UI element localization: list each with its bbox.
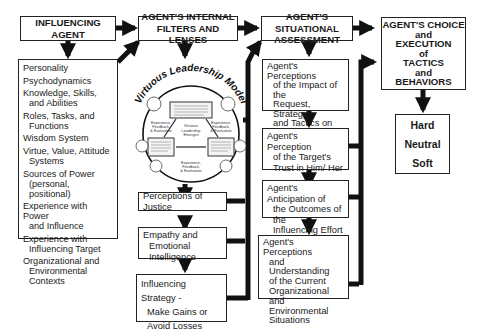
svg-text:Emerges: Emerges — [183, 133, 198, 137]
list-item-power-experience: Experience with Powerand Influence — [23, 201, 113, 231]
box-text: Situations — [263, 316, 344, 326]
influencing-strategy-box: Influencing Strategy - Make Gains or Avo… — [136, 274, 227, 322]
svg-text:Virtuous: Virtuous — [184, 124, 198, 128]
box-text: Agent's Perceptions — [263, 238, 344, 258]
list-item-psychodynamics: Psychodynamics — [23, 76, 113, 86]
box-text: Influencing Effort — [267, 225, 344, 236]
agent-attributes-list: Personality Psychodynamics Knowledge, Sk… — [18, 59, 118, 239]
box-text: of the Target's — [267, 152, 344, 163]
box-text: Agent's Perceptions — [267, 62, 344, 81]
list-item-virtue: Virtue, Value, AttitudeSystems — [23, 146, 113, 166]
header-line: AGENT'S INTERNAL — [141, 11, 234, 23]
box-text: Agent's Anticipation of — [267, 183, 344, 204]
tactic-outcomes-box: Hard Neutral Soft — [395, 114, 450, 174]
list-item-knowledge: Knowledge, Skills,and Abilities — [23, 88, 113, 108]
box-text: Make Gains or — [141, 305, 222, 319]
influencing-agent-header: INFLUENCING AGENT — [20, 16, 116, 41]
header-line: ASSESSMENT — [274, 34, 340, 46]
box-text: Trust in Him/ Her — [267, 163, 344, 174]
impact-perception-box: Agent's Perceptions of the Impact of the… — [262, 59, 349, 111]
header-line: BEHAVIORS — [395, 77, 451, 87]
target-trust-box: Agent's Perception of the Target's Trust… — [262, 128, 349, 170]
svg-text:& Evaluation: & Evaluation — [210, 129, 231, 133]
box-text: Agent's Perception — [267, 131, 344, 152]
header-line: AGENT — [51, 29, 85, 41]
list-item-wisdom: Wisdom System — [23, 133, 113, 143]
header-line: FILTERS AND LENSES — [139, 23, 237, 46]
box-text: Influencing Strategy - — [141, 277, 222, 305]
box-text: Request, Strategy, — [267, 100, 344, 119]
box-text: Perceptions of Justice — [143, 191, 222, 213]
box-text: the Outcomes of the — [267, 204, 344, 225]
list-item-power-sources: Sources of Power(personal, positional) — [23, 169, 113, 199]
environment-understanding-box: Agent's Perceptions and Understanding of… — [258, 235, 349, 299]
svg-text:& Evaluation: & Evaluation — [180, 169, 201, 173]
list-item-roles: Roles, Tasks, andFunctions — [23, 111, 113, 131]
box-text: Empathy and — [143, 230, 222, 241]
box-text: Organizational and — [263, 287, 344, 307]
header-line: INFLUENCING — [35, 17, 101, 29]
internal-filters-header: AGENT'S INTERNAL FILTERS AND LENSES — [138, 16, 238, 41]
outcome-anticipation-box: Agent's Anticipation of the Outcomes of … — [262, 180, 349, 218]
perceptions-of-justice-box: Perceptions of Justice — [138, 192, 227, 211]
outcome-soft: Soft — [396, 154, 449, 173]
list-item-personality: Personality — [23, 63, 113, 73]
svg-text:& Evaluation: & Evaluation — [150, 129, 171, 133]
box-text: Emotional Intelligence — [143, 241, 222, 263]
box-text: and Understanding — [263, 258, 344, 278]
box-text: Avoid Losses — [141, 319, 222, 332]
outcome-neutral: Neutral — [396, 135, 449, 154]
header-line: AGENT'S SITUATIONAL — [262, 11, 352, 34]
outcome-hard: Hard — [396, 116, 449, 135]
box-text: of the Impact of the — [267, 81, 344, 100]
agent-choice-header: AGENT'S CHOICE and EXECUTION of TACTICS … — [381, 17, 466, 90]
situational-assessment-header: AGENT'S SITUATIONAL ASSESSMENT — [261, 16, 353, 41]
list-item-contexts: Organizational andEnvironmental Contexts — [23, 256, 113, 286]
list-item-target-experience: Experience withInfluencing Target — [23, 234, 113, 254]
virtuous-leadership-model: Virtuous Leadership Model Virtuous Leade… — [128, 58, 254, 184]
empathy-box: Empathy and Emotional Intelligence — [138, 227, 227, 259]
svg-text:Leadership: Leadership — [182, 129, 201, 133]
virtuous-leadership-model-graphic: Virtuous Leadership Model Virtuous Leade… — [128, 58, 254, 184]
